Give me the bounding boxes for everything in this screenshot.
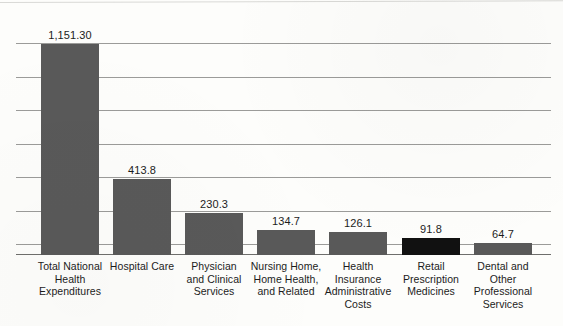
bar-slot: 126.1 xyxy=(329,43,387,255)
category-label: Dental andOtherProfessionalServices xyxy=(453,260,553,310)
category-label-line: Other xyxy=(453,273,553,286)
scan-edge-artifact xyxy=(0,0,563,3)
bar-slot: 91.8 xyxy=(402,43,460,255)
category-label-line: Health xyxy=(20,273,120,286)
bar-value-label: 134.7 xyxy=(272,215,300,227)
bar-value-label: 1,151.30 xyxy=(48,29,92,41)
bar[interactable] xyxy=(402,238,460,255)
bar-value-label: 64.7 xyxy=(492,228,514,240)
bar-slot: 1,151.30 xyxy=(41,43,99,255)
bar-slot: 134.7 xyxy=(257,43,315,255)
bar[interactable] xyxy=(113,179,171,255)
category-label-line: Services xyxy=(453,298,553,311)
category-label-line: Professional xyxy=(453,285,553,298)
category-label-line: Costs xyxy=(308,298,408,311)
bar-value-label: 413.8 xyxy=(128,164,156,176)
bar-slot: 64.7 xyxy=(474,43,532,255)
plot-area: 1,151.30413.8230.3134.7126.191.864.7 xyxy=(16,43,551,255)
bar-value-label: 126.1 xyxy=(344,217,372,229)
bar[interactable] xyxy=(257,230,315,255)
bar-chart: 1,151.30413.8230.3134.7126.191.864.7 Tot… xyxy=(0,0,563,326)
category-label-line: Expenditures xyxy=(20,285,120,298)
category-axis: Total NationalHealthExpendituresHospital… xyxy=(16,260,551,324)
category-label-line: Dental and xyxy=(453,260,553,273)
bar[interactable] xyxy=(185,213,243,255)
bar-value-label: 91.8 xyxy=(420,223,442,235)
bar-group: 1,151.30413.8230.3134.7126.191.864.7 xyxy=(16,43,551,255)
bar[interactable] xyxy=(329,232,387,255)
bar-value-label: 230.3 xyxy=(200,198,228,210)
bar[interactable] xyxy=(474,243,532,255)
bar[interactable] xyxy=(41,44,99,255)
bar-slot: 413.8 xyxy=(113,43,171,255)
bar-slot: 230.3 xyxy=(185,43,243,255)
